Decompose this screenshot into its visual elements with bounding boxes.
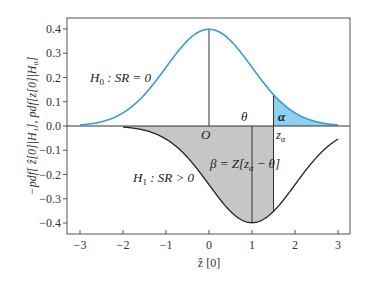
beta-region [123, 126, 274, 223]
chart: 0.40.30.20.10.0−0.1−0.2−0.3−0.4 −3−2−101… [0, 0, 366, 285]
x-axis-label: ẑ [0] [198, 256, 220, 270]
x-tick-label: −1 [160, 238, 173, 252]
y-axis-ticks: 0.40.30.20.10.0−0.1−0.2−0.3−0.4 [39, 22, 67, 230]
z-alpha-label: zα [275, 127, 286, 144]
y-axis-label: −pdf[ ẑ[0]|H₁], pdf[z[0]|H₀] [25, 56, 39, 195]
h0-label: H0 : SR = 0 [89, 70, 151, 87]
y-tick-label: −0.3 [39, 192, 61, 206]
theta-label: θ [241, 109, 248, 124]
alpha-label: α [278, 109, 286, 124]
y-tick-label: 0.0 [46, 119, 61, 133]
x-axis-ticks: −3−2−10123 [74, 230, 341, 252]
y-tick-label: 0.1 [46, 95, 61, 109]
y-tick-label: 0.4 [46, 22, 61, 36]
x-tick-label: −2 [117, 238, 130, 252]
x-tick-label: −3 [74, 238, 87, 252]
x-tick-label: 0 [206, 238, 212, 252]
x-tick-label: 2 [292, 238, 298, 252]
h1-label: H1 : SR > 0 [132, 170, 194, 187]
beta-label: β = Z[zα − θ] [209, 156, 280, 173]
y-tick-label: −0.1 [39, 143, 61, 157]
x-tick-label: 1 [249, 238, 255, 252]
y-tick-label: 0.3 [46, 46, 61, 60]
y-tick-label: 0.2 [46, 71, 61, 85]
y-tick-label: −0.4 [39, 216, 61, 230]
y-tick-label: −0.2 [39, 168, 61, 182]
origin-label: O [201, 127, 211, 142]
x-tick-label: 3 [335, 238, 341, 252]
